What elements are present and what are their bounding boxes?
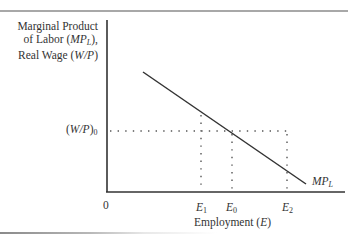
e2-tick-label: E2 [282, 201, 293, 215]
mpl-curve-label: MPL [312, 175, 333, 189]
y-axis-label-line1: Marginal Product [17, 20, 98, 33]
real-wage-tick-label: (W/P)0 [66, 123, 98, 137]
y-axis-label: Marginal Product of Labor (MPL), Real Wa… [17, 20, 98, 62]
e0-tick-label: E0 [226, 201, 237, 215]
y-axis-label-line2: of Labor (MPL), [17, 33, 98, 49]
e1-tick-label: E1 [196, 201, 207, 215]
mpl-curve [143, 72, 306, 184]
x-axis-label: Employment (E) [194, 216, 271, 228]
origin-label: 0 [103, 199, 109, 211]
y-axis-label-line3: Real Wage (W/P) [17, 49, 98, 62]
bottom-rule [0, 232, 361, 234]
